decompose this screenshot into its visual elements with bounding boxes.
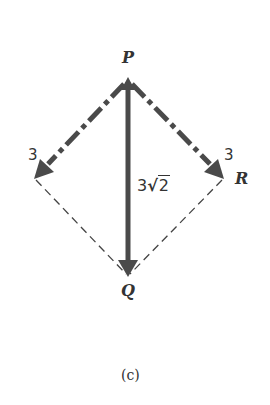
sqrt-symbol: √2 (147, 178, 170, 194)
magnitude-label-left: 3 (28, 148, 38, 163)
vector-pr (132, 84, 210, 164)
vector-p-left (48, 84, 124, 164)
magnitude-label-resultant: 3√2 (137, 178, 170, 194)
dashed-line-left-to-q (36, 180, 126, 274)
figure-caption: (c) (121, 368, 140, 382)
vector-diagram (0, 0, 270, 405)
point-label-q: Q (121, 283, 135, 299)
magnitude-label-right: 3 (224, 148, 234, 163)
magnitude-coefficient: 3 (137, 176, 147, 195)
point-label-r: R (235, 171, 248, 187)
magnitude-radicand: 2 (158, 175, 170, 195)
point-label-p: P (122, 50, 134, 66)
